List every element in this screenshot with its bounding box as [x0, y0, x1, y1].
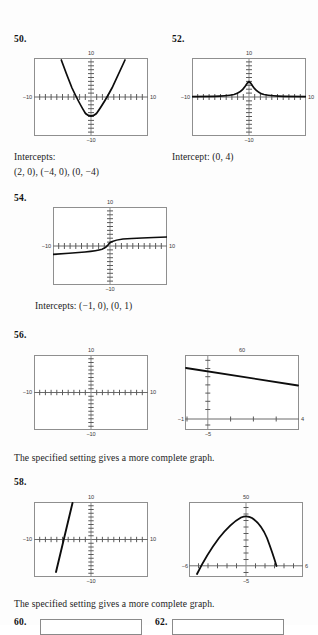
- graph-54-label-left: −10: [42, 243, 51, 249]
- graph-56-left-label-left: −10: [23, 389, 32, 395]
- graph-56-right-label-bottom: −5: [205, 431, 211, 437]
- graph-56-right-label-left: −1: [178, 416, 184, 422]
- graph-56-right: [185, 355, 299, 430]
- graph-58-left-label-right: 10: [150, 536, 156, 542]
- answer-50-line-2: (2, 0), (−4, 0), (0, −4): [14, 166, 99, 177]
- graph-60-partial: [40, 619, 142, 635]
- graph-54-label-bottom: −10: [105, 286, 114, 292]
- graph-50-label-left: −10: [23, 94, 32, 100]
- graph-56-left-label-bottom: −10: [86, 431, 95, 437]
- problem-number-52: 52.: [172, 34, 184, 44]
- graph-58-left-label-bottom: −10: [86, 578, 95, 584]
- graph-52-label-bottom: −10: [244, 137, 253, 143]
- graph-58-left: [34, 502, 148, 577]
- problem-number-58: 58.: [14, 477, 26, 487]
- graph-52-label-right: 10: [308, 94, 314, 100]
- graph-58-right-label-left: −6: [182, 563, 188, 569]
- problem-number-62: 62.: [155, 617, 167, 627]
- answer-52-line-1: Intercept: (0, 4): [172, 151, 234, 162]
- graph-56-right-label-top: 60: [239, 347, 245, 353]
- answer-56-line-1: The specified setting gives a more compl…: [14, 452, 215, 463]
- problem-number-54: 54.: [14, 193, 26, 203]
- graph-50-label-right: 10: [150, 94, 156, 100]
- graph-58-right-label-right: 6: [305, 563, 308, 569]
- answer-50-line-1: Intercepts:: [14, 151, 56, 162]
- graph-58-right-label-bottom: −5: [243, 578, 249, 584]
- graph-54-label-right: 10: [169, 243, 175, 249]
- graph-56-left: [34, 355, 148, 430]
- graph-54: [53, 207, 167, 285]
- graph-50: [34, 58, 148, 136]
- graph-58-right-label-top: 50: [243, 494, 249, 500]
- graph-56-left-label-right: 10: [150, 389, 156, 395]
- graph-62-partial: [172, 619, 284, 635]
- problem-number-50: 50.: [14, 34, 26, 44]
- answer-54-line-1: Intercepts: (−1, 0), (0, 1): [35, 300, 132, 311]
- graph-58-right: [189, 502, 303, 577]
- graph-52: [192, 58, 306, 136]
- graph-52-label-left: −10: [181, 94, 190, 100]
- graph-58-left-label-left: −10: [23, 536, 32, 542]
- graph-56-left-label-top: 10: [88, 347, 94, 353]
- graph-50-label-top: 10: [88, 50, 94, 56]
- graph-58-left-label-top: 10: [88, 494, 94, 500]
- problem-number-60: 60.: [14, 617, 26, 627]
- graph-50-label-bottom: −10: [86, 137, 95, 143]
- graph-54-label-top: 10: [107, 199, 113, 205]
- graph-56-right-label-right: 4: [301, 416, 304, 422]
- problem-number-56: 56.: [14, 330, 26, 340]
- graph-52-label-top: 10: [246, 50, 252, 56]
- answer-58-line-1: The specified setting gives a more compl…: [14, 598, 215, 609]
